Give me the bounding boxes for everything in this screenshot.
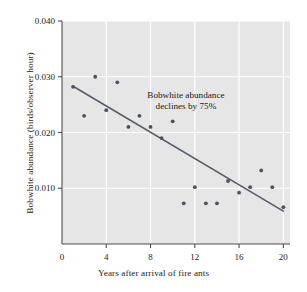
data-point	[281, 205, 285, 209]
svg-text:0.030: 0.030	[35, 72, 56, 82]
data-point	[127, 125, 131, 129]
data-point	[171, 119, 175, 123]
data-point	[93, 75, 97, 79]
svg-text:20: 20	[279, 252, 289, 262]
annotation-line-1: Bobwhite abundance	[147, 90, 224, 100]
svg-text:16: 16	[235, 252, 245, 262]
svg-text:0.040: 0.040	[35, 16, 56, 26]
svg-text:8: 8	[148, 252, 153, 262]
data-point	[104, 108, 108, 112]
data-point	[182, 201, 186, 205]
y-axis-tick-labels: 0.0100.0200.0300.040	[35, 16, 56, 193]
data-point	[270, 185, 274, 189]
svg-text:0.020: 0.020	[35, 128, 56, 138]
svg-text:4: 4	[104, 252, 109, 262]
data-point	[138, 114, 142, 118]
data-point	[115, 80, 119, 84]
x-axis-tick-labels: 048121620	[60, 252, 289, 262]
svg-text:0.010: 0.010	[35, 183, 56, 193]
svg-text:12: 12	[190, 252, 199, 262]
data-point	[259, 169, 263, 173]
data-point	[71, 85, 75, 89]
data-point	[237, 191, 241, 195]
data-point	[82, 114, 86, 118]
data-point	[149, 125, 153, 129]
data-point	[215, 201, 219, 205]
y-axis-ticks	[58, 21, 62, 188]
annotation-line-2: declines by 75%	[156, 101, 217, 111]
data-point	[204, 201, 208, 205]
x-axis-title: Years after arrival of fire ants	[0, 268, 307, 278]
scatter-chart: 0.0100.0200.0300.040 048121620 Bobwhite …	[0, 0, 307, 292]
data-point	[248, 185, 252, 189]
data-point	[160, 136, 164, 140]
figure-container: 0.0100.0200.0300.040 048121620 Bobwhite …	[0, 0, 307, 292]
data-point	[193, 185, 197, 189]
svg-text:0: 0	[60, 252, 65, 262]
y-axis-title: Bobwhite abundance (birds/observer hour)	[25, 17, 35, 249]
x-axis-ticks	[106, 244, 283, 248]
data-point	[226, 179, 230, 183]
